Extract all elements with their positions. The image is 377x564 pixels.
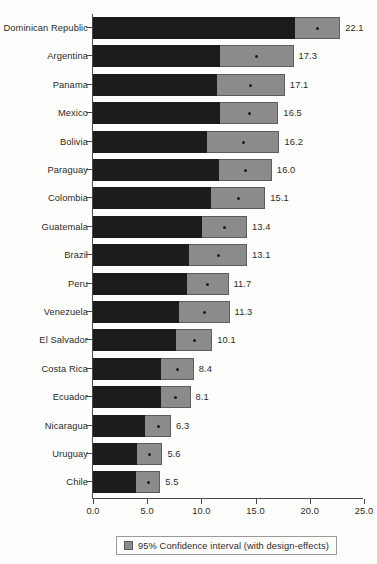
x-axis: 0.05.010.015.020.025.0 — [0, 498, 377, 528]
bar-row: Chile5.5 — [0, 468, 377, 496]
bar-row: Argentina17.3 — [0, 42, 377, 70]
bar-value-label: 10.1 — [217, 326, 236, 354]
ci-midpoint-dot — [176, 368, 179, 371]
bar-row: Uruguay5.6 — [0, 440, 377, 468]
plot-area: Dominican Republic22.1Argentina17.3Panam… — [0, 0, 377, 500]
bar-row: Venezuela11.3 — [0, 298, 377, 326]
x-axis-tick — [256, 499, 257, 504]
y-axis-tick — [86, 55, 92, 56]
bar-value-label: 13.4 — [252, 213, 271, 241]
y-axis-tick — [86, 368, 92, 369]
bar-row: Nicaragua6.3 — [0, 412, 377, 440]
ci-midpoint-dot — [316, 27, 319, 30]
bar-row-label: Guatemala — [42, 213, 88, 241]
bar-row: Guatemala13.4 — [0, 213, 377, 241]
y-axis-tick — [86, 283, 92, 284]
estimate-bar — [93, 358, 161, 380]
bar-group — [93, 273, 229, 295]
bar-group — [93, 187, 265, 209]
bar-row-label: Panama — [53, 71, 88, 99]
bar-group — [93, 131, 279, 153]
bar-row: Panama17.1 — [0, 71, 377, 99]
bar-value-label: 13.1 — [252, 241, 271, 269]
bar-group — [93, 386, 191, 408]
y-axis-tick — [86, 226, 92, 227]
bar-value-label: 6.3 — [176, 412, 189, 440]
y-axis-tick — [86, 27, 92, 28]
estimate-bar — [93, 187, 211, 209]
x-axis-tick-label: 15.0 — [246, 506, 265, 516]
bar-row-label: Venezuela — [44, 298, 88, 326]
bar-row-label: Chile — [66, 468, 88, 496]
x-axis-tick — [364, 499, 365, 504]
estimate-bar — [93, 273, 187, 295]
y-axis-tick — [86, 112, 92, 113]
bar-row: Paraguay16.0 — [0, 156, 377, 184]
estimate-bar — [93, 131, 207, 153]
bar-row-label: Dominican Republic — [4, 14, 88, 42]
x-axis-tick-label: 20.0 — [301, 506, 320, 516]
bar-value-label: 15.1 — [270, 184, 289, 212]
bar-value-label: 22.1 — [345, 14, 364, 42]
bar-value-label: 11.3 — [235, 298, 253, 326]
y-axis-tick — [86, 339, 92, 340]
bar-group — [93, 329, 212, 351]
y-axis-tick — [86, 254, 92, 255]
estimate-bar — [93, 216, 202, 238]
legend-label: 95% Confidence interval (with design-eff… — [138, 541, 329, 551]
bar-value-label: 8.4 — [199, 355, 212, 383]
bar-row-label: El Salvador — [39, 326, 88, 354]
estimate-bar — [93, 443, 137, 465]
bar-row-label: Bolivia — [60, 128, 88, 156]
y-axis-tick — [86, 453, 92, 454]
bar-group — [93, 102, 278, 124]
bar-row: Mexico16.5 — [0, 99, 377, 127]
bar-group — [93, 244, 247, 266]
bar-row-label: Ecuador — [53, 383, 88, 411]
legend-swatch-ci — [124, 541, 133, 550]
bar-row: Bolivia16.2 — [0, 128, 377, 156]
bar-row-label: Peru — [68, 270, 88, 298]
ci-midpoint-dot — [242, 141, 245, 144]
bar-value-label: 17.3 — [299, 42, 318, 70]
bar-row: Peru11.7 — [0, 270, 377, 298]
ci-midpoint-dot — [157, 425, 160, 428]
bar-value-label: 11.7 — [234, 270, 252, 298]
x-axis-tick-label: 5.0 — [141, 506, 154, 516]
bar-value-label: 8.1 — [196, 383, 209, 411]
x-axis-tick — [147, 499, 148, 504]
y-axis-tick — [86, 141, 92, 142]
x-axis-tick — [310, 499, 311, 504]
chart-page: Dominican Republic22.1Argentina17.3Panam… — [0, 0, 377, 564]
bar-row-label: Brazil — [64, 241, 88, 269]
bar-row: Dominican Republic22.1 — [0, 14, 377, 42]
bar-row-label: Costa Rica — [42, 355, 88, 383]
bar-row: Ecuador8.1 — [0, 383, 377, 411]
bar-group — [93, 159, 272, 181]
bar-row: Costa Rica8.4 — [0, 355, 377, 383]
bar-row-label: Uruguay — [52, 440, 88, 468]
bar-group — [93, 17, 340, 39]
bar-row-label: Mexico — [58, 99, 88, 127]
bar-value-label: 16.0 — [277, 156, 296, 184]
estimate-bar — [93, 244, 189, 266]
bar-group — [93, 74, 285, 96]
bar-row-label: Paraguay — [47, 156, 88, 184]
x-axis-line — [92, 498, 363, 499]
bar-row-label: Colombia — [48, 184, 88, 212]
y-axis-tick — [86, 481, 92, 482]
bar-row: El Salvador10.1 — [0, 326, 377, 354]
y-axis-tick — [86, 311, 92, 312]
estimate-bar — [93, 159, 219, 181]
estimate-bar — [93, 17, 295, 39]
y-axis-tick — [86, 84, 92, 85]
bar-row: Brazil13.1 — [0, 241, 377, 269]
bar-group — [93, 45, 294, 67]
ci-midpoint-dot — [248, 112, 251, 115]
bar-value-label: 16.5 — [283, 99, 302, 127]
y-axis-tick — [86, 169, 92, 170]
ci-midpoint-dot — [203, 311, 206, 314]
estimate-bar — [93, 415, 145, 437]
x-axis-tick-label: 25.0 — [355, 506, 374, 516]
x-axis-tick-label: 10.0 — [192, 506, 211, 516]
